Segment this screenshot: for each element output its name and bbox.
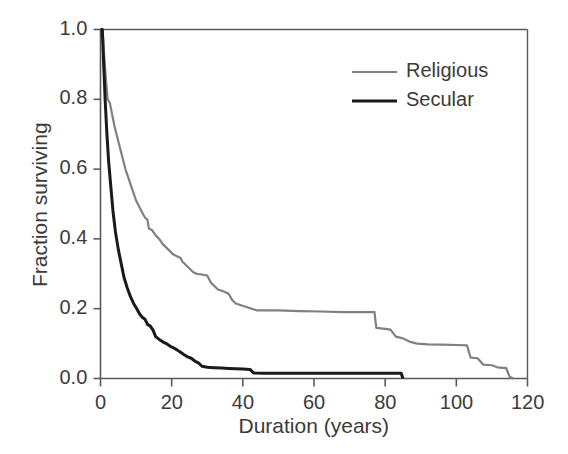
x-tick-label-4: 80 [374,391,396,414]
survival-curve-figure: 0.0 0.2 0.4 0.6 0.8 1.0 0 20 40 60 80 10… [0,0,568,454]
y-tick-label-5: 1.0 [60,17,88,40]
legend-line-swatches [352,72,397,101]
legend-label-religious: Religious [406,59,488,82]
x-tick-label-6: 120 [511,391,544,414]
x-tick-label-0: 0 [95,391,106,414]
y-tick-label-3: 0.6 [60,156,88,179]
x-tick-label-1: 20 [161,391,183,414]
legend-label-secular: Secular [406,88,474,111]
y-tick-label-2: 0.4 [60,226,88,249]
y-axis-title: Fraction surviving [28,122,52,287]
y-tick-label-4: 0.8 [60,86,88,109]
x-tick-label-5: 100 [440,391,473,414]
x-tick-label-2: 40 [232,391,254,414]
axis-ticks [94,30,528,387]
y-tick-label-1: 0.2 [60,296,88,319]
y-tick-label-0: 0.0 [60,366,88,389]
x-axis-title: Duration (years) [239,414,390,438]
x-tick-label-3: 60 [303,391,325,414]
